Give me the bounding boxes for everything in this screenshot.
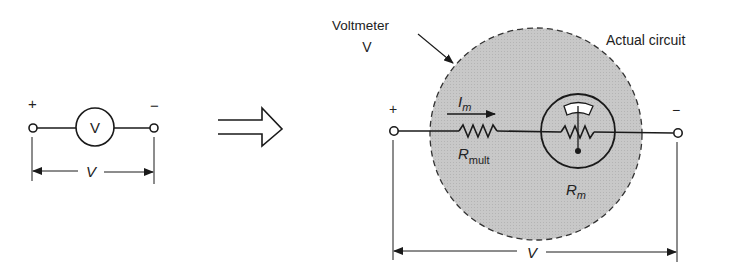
voltmeter-symbol: + − V V [28, 95, 159, 184]
terminal-negative-icon [150, 124, 158, 132]
double-arrow-right-icon [218, 108, 282, 146]
terminal-positive-icon [390, 127, 398, 135]
plus-sign-right: + [389, 101, 397, 117]
actual-circuit-label: Actual circuit [606, 32, 685, 48]
terminal-positive-icon [29, 124, 37, 132]
voltage-label-left: V [86, 163, 98, 180]
minus-sign-left: − [150, 97, 159, 114]
voltmeter-boundary-circle [430, 28, 642, 240]
minus-sign-right: − [672, 102, 680, 118]
plus-sign-left: + [28, 95, 37, 112]
meter-pivot-icon [575, 148, 581, 154]
voltmeter-label: Voltmeter [332, 18, 390, 33]
voltmeter-equivalent-diagram: + − V V Voltmeter V Actual circuit + − [0, 0, 745, 276]
terminal-negative-icon [674, 129, 682, 137]
pointer-arrow-icon [418, 34, 453, 63]
actual-circuit: Voltmeter V Actual circuit + − Im Rmult … [332, 18, 685, 262]
meter-letter: V [90, 119, 100, 136]
voltmeter-label-v: V [362, 39, 372, 55]
voltage-label-right: V [527, 244, 539, 261]
